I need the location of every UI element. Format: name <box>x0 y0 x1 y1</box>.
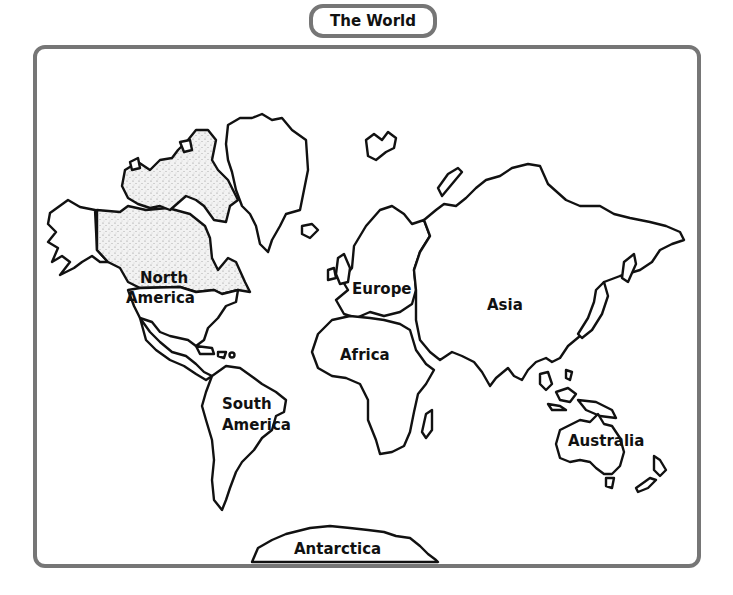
label-asia: Asia <box>487 296 523 314</box>
greenland-shape <box>226 114 308 252</box>
label-south-america-line2: America <box>222 416 291 434</box>
map-title: The World <box>309 4 437 38</box>
label-australia: Australia <box>568 432 644 450</box>
caribbean-island <box>196 346 214 354</box>
label-antarctica: Antarctica <box>294 540 381 558</box>
label-africa: Africa <box>340 346 390 364</box>
new-zealand-south <box>636 478 656 492</box>
southeast-asia-islands <box>548 404 566 410</box>
southeast-asia-islands <box>556 388 576 402</box>
arctic-island <box>130 158 140 170</box>
ireland-shape <box>328 268 336 280</box>
new-zealand-north <box>654 456 666 476</box>
south-america-shape <box>202 366 286 510</box>
southeast-asia-islands <box>540 372 552 390</box>
africa-shape <box>312 316 434 454</box>
label-north-america-line1: North <box>140 269 188 287</box>
madagascar-shape <box>422 410 432 438</box>
label-north-america-line2: America <box>126 289 195 307</box>
asia-shape <box>414 164 684 386</box>
britain-shape <box>336 254 350 284</box>
caribbean-island <box>218 352 226 358</box>
tasmania-shape <box>606 478 614 488</box>
iceland-shape <box>302 224 318 238</box>
label-south-america-line1: South <box>222 395 272 413</box>
novaya-zemlya-shape <box>438 168 462 196</box>
svalbard-shape <box>366 132 396 160</box>
caribbean-island <box>230 353 235 358</box>
world-map: North America South America Europe Afric… <box>0 0 733 595</box>
label-europe: Europe <box>352 280 412 298</box>
southeast-asia-islands <box>566 370 572 380</box>
